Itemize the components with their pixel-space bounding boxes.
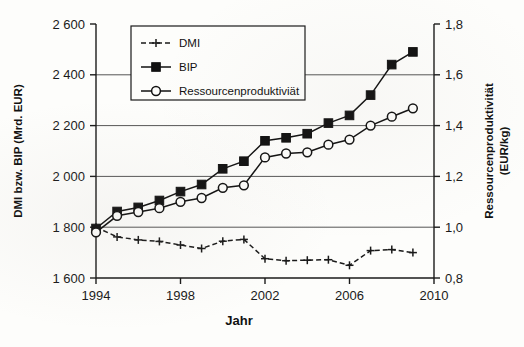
tick-label: 1,8	[445, 17, 463, 32]
tick-label: 2 000	[52, 169, 85, 184]
tick-label: 2006	[335, 288, 364, 303]
data-point	[324, 140, 333, 149]
data-point	[366, 121, 375, 130]
data-point	[409, 48, 418, 57]
tick-label: 1,2	[445, 169, 463, 184]
data-point	[218, 165, 227, 174]
legend-marker	[152, 63, 161, 72]
y-axis-left-title: DMI bzw. BIP (Mrd. EUR)	[12, 84, 24, 218]
tick-label: 0,8	[445, 271, 463, 286]
legend-marker	[152, 87, 161, 96]
tick-label: 1 800	[52, 220, 85, 235]
tick-label: 2002	[251, 288, 280, 303]
chart-figure: 1 6001 8002 0002 2002 4002 600 0,81,01,2…	[0, 0, 524, 347]
x-axis-title: Jahr	[225, 313, 252, 328]
data-point	[155, 204, 164, 213]
tick-label: 1998	[166, 288, 195, 303]
data-point	[303, 129, 312, 138]
legend-label: Ressourcenproduktiviät	[179, 85, 300, 97]
tick-label: 2 200	[52, 118, 85, 133]
data-point	[92, 228, 101, 237]
data-point	[282, 149, 291, 158]
tick-label: 2 600	[52, 17, 85, 32]
data-point	[197, 180, 206, 189]
legend-label: BIP	[179, 61, 198, 73]
data-point	[366, 91, 375, 100]
data-point	[240, 157, 249, 166]
data-point	[197, 194, 206, 203]
data-point	[113, 211, 122, 220]
data-point	[282, 134, 291, 143]
tick-label: 1,4	[445, 118, 463, 133]
tick-label: 1 600	[52, 271, 85, 286]
data-point	[409, 104, 418, 113]
data-point	[345, 135, 354, 144]
data-point	[176, 197, 185, 206]
data-point	[261, 153, 270, 162]
data-point	[387, 112, 396, 121]
legend: DMIBIPRessourcenproduktiviät	[131, 26, 305, 100]
data-point	[261, 137, 270, 146]
data-point	[345, 111, 354, 120]
y-axis-right-title-line2: (EUR/kg)	[498, 127, 510, 176]
data-point	[134, 208, 143, 217]
tick-label: 2 400	[52, 67, 85, 82]
data-point	[176, 187, 185, 196]
data-point	[324, 119, 333, 128]
tick-label: 2010	[420, 288, 449, 303]
tick-label: 1,6	[445, 67, 463, 82]
data-point	[218, 183, 227, 192]
data-point	[303, 148, 312, 157]
legend-label: DMI	[179, 37, 200, 49]
y-axis-right-title-line1: Ressourcenproduktivität	[483, 83, 495, 219]
data-point	[387, 60, 396, 69]
tick-label: 1,0	[445, 220, 463, 235]
data-point	[240, 181, 249, 190]
tick-label: 1994	[82, 288, 111, 303]
